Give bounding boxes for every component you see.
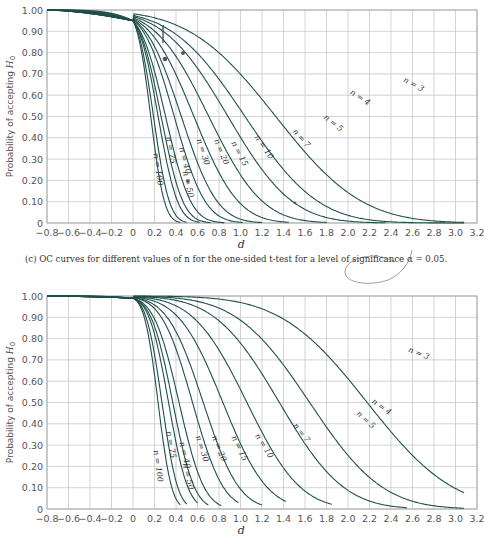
chart-alpha-005: −0.8−0.6−0.4−0.200.20.40.60.81.01.21.41.… bbox=[5, 5, 484, 252]
oc-curve-20 bbox=[47, 296, 238, 503]
x-tick-label: −0.2 bbox=[100, 513, 123, 524]
y-tick-label: 0.20 bbox=[22, 461, 43, 472]
y-tick-label: 0 bbox=[37, 504, 43, 515]
x-tick-label: 1.4 bbox=[276, 227, 291, 238]
y-tick-label: 0.40 bbox=[22, 132, 43, 143]
curve-label: n = 3 bbox=[407, 345, 431, 362]
x-tick-label: 3.2 bbox=[469, 513, 484, 524]
x-tick-label: −0.6 bbox=[57, 227, 80, 238]
caption-prefix: (c) bbox=[25, 254, 37, 264]
y-tick-label: 0.10 bbox=[22, 196, 43, 207]
y-tick-label: 0.40 bbox=[22, 418, 43, 429]
y-tick-label: 0.90 bbox=[22, 312, 43, 323]
y-tick-label: 0.50 bbox=[22, 397, 43, 408]
x-tick-label: 0 bbox=[130, 227, 136, 238]
chart-caption: (c) OC curves for different values of n … bbox=[25, 254, 447, 264]
oc-curve-75 bbox=[47, 296, 187, 504]
x-tick-label: −0.2 bbox=[100, 227, 123, 238]
y-tick-label: 0.30 bbox=[22, 440, 43, 451]
chart-alpha-001: −0.8−0.6−0.4−0.200.20.40.60.81.01.21.41.… bbox=[5, 291, 484, 538]
x-tick-label: 1.6 bbox=[297, 227, 312, 238]
y-tick-label: 0.50 bbox=[22, 111, 43, 122]
x-tick-label: 2.0 bbox=[340, 513, 355, 524]
x-tick-label: 2.2 bbox=[362, 227, 377, 238]
y-axis-ticks: 00.100.200.300.400.500.600.700.800.901.0… bbox=[22, 291, 43, 515]
x-tick-label: 3.0 bbox=[448, 227, 463, 238]
y-tick-label: 0.20 bbox=[22, 175, 43, 186]
y-tick-label: 0.10 bbox=[22, 482, 43, 493]
grid bbox=[47, 10, 477, 223]
y-tick-label: 0.90 bbox=[22, 26, 43, 37]
x-tick-label: 3.0 bbox=[448, 513, 463, 524]
x-tick-label: 1.2 bbox=[254, 513, 269, 524]
pen-dot bbox=[294, 202, 297, 205]
y-axis-ticks: 00.100.200.300.400.500.600.700.800.901.0… bbox=[22, 5, 43, 229]
x-tick-label: 2.8 bbox=[426, 227, 441, 238]
curve-label: n = 7 bbox=[291, 421, 312, 445]
x-tick-label: 1.8 bbox=[319, 227, 334, 238]
x-axis-ticks: −0.8−0.6−0.4−0.200.20.40.60.81.01.21.41.… bbox=[35, 513, 484, 524]
x-tick-label: 1.0 bbox=[233, 227, 248, 238]
x-tick-label: 0.4 bbox=[168, 513, 183, 524]
x-tick-label: 1.2 bbox=[254, 227, 269, 238]
curve-label: n = 15 bbox=[230, 434, 250, 462]
x-tick-label: 0.8 bbox=[211, 227, 226, 238]
x-tick-label: 0.2 bbox=[147, 227, 162, 238]
curve-label: n = 4 bbox=[370, 397, 393, 417]
curve-label: n = 4 bbox=[348, 88, 371, 108]
x-tick-label: 0 bbox=[130, 513, 136, 524]
curve-label: n = 5 bbox=[322, 113, 345, 134]
x-tick-label: 2.4 bbox=[383, 513, 398, 524]
x-tick-label: 2.2 bbox=[362, 513, 377, 524]
x-tick-label: −0.8 bbox=[35, 227, 58, 238]
caption-text: OC curves for different values of n for … bbox=[39, 254, 447, 264]
grid bbox=[47, 296, 477, 509]
curve-label: n = 15 bbox=[229, 140, 250, 168]
oc-curve-3 bbox=[47, 296, 464, 493]
pen-dot bbox=[163, 57, 168, 62]
y-tick-label: 1.00 bbox=[22, 291, 43, 302]
y-tick-label: 0.80 bbox=[22, 333, 43, 344]
y-tick-label: 0.70 bbox=[22, 68, 43, 79]
x-tick-label: 1.4 bbox=[276, 513, 291, 524]
x-tick-label: 2.4 bbox=[383, 227, 398, 238]
oc-curve-5 bbox=[47, 296, 407, 508]
y-tick-label: 0.70 bbox=[22, 354, 43, 365]
x-tick-label: 0.6 bbox=[190, 513, 205, 524]
x-tick-label: −0.6 bbox=[57, 513, 80, 524]
x-tick-label: 2.8 bbox=[426, 513, 441, 524]
x-tick-label: 0.2 bbox=[147, 513, 162, 524]
y-tick-label: 1.00 bbox=[22, 5, 43, 16]
x-tick-label: 0.6 bbox=[190, 227, 205, 238]
curve-labels: n = 3n = 4n = 5n = 7n = 10n = 15n = 20n … bbox=[151, 75, 425, 198]
curve-label: n = 20 bbox=[210, 434, 229, 463]
x-tick-label: 2.6 bbox=[405, 227, 420, 238]
x-tick-label: 3.2 bbox=[469, 227, 484, 238]
x-tick-label: −0.4 bbox=[78, 513, 101, 524]
y-tick-label: 0.60 bbox=[22, 90, 43, 101]
x-tick-label: 2.0 bbox=[340, 227, 355, 238]
y-axis-label: Probability of accepting H0 bbox=[5, 342, 17, 463]
x-axis-label: d bbox=[238, 524, 245, 537]
x-tick-label: 2.6 bbox=[405, 513, 420, 524]
oc-curve-30 bbox=[47, 296, 221, 505]
curve-label: n = 10 bbox=[253, 432, 275, 460]
y-tick-label: 0.30 bbox=[22, 154, 43, 165]
x-axis-label: d bbox=[238, 238, 245, 251]
pen-dot bbox=[186, 179, 190, 183]
x-tick-label: 1.0 bbox=[233, 513, 248, 524]
curve-label: n = 5 bbox=[355, 409, 377, 430]
curve-label: n = 30 bbox=[194, 434, 211, 463]
y-tick-label: 0 bbox=[37, 218, 43, 229]
x-tick-label: −0.8 bbox=[35, 513, 58, 524]
y-tick-label: 0.60 bbox=[22, 376, 43, 387]
curve-label: n = 100 bbox=[151, 153, 164, 186]
curve-label: n = 3 bbox=[402, 75, 426, 93]
x-tick-label: 0.4 bbox=[168, 227, 183, 238]
x-tick-label: 1.8 bbox=[319, 513, 334, 524]
curve-label: n = 20 bbox=[212, 138, 231, 167]
oc-curves-figure: −0.8−0.6−0.4−0.200.20.40.60.81.01.21.41.… bbox=[0, 0, 484, 540]
pen-dot bbox=[181, 51, 185, 55]
x-tick-label: −0.4 bbox=[78, 227, 101, 238]
y-tick-label: 0.80 bbox=[22, 47, 43, 58]
